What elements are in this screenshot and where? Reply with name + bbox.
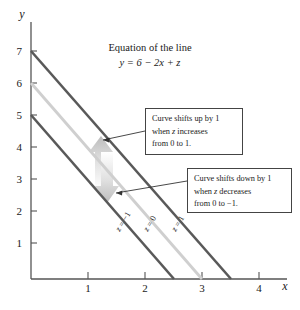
x-tick-2: 2 [142,282,148,294]
annotation-shift-down-line3: from 0 to −1. [194,198,286,211]
chart-title-block: Equation of the line y = 6 − 2x + z [78,40,222,70]
y-axis-label: y [18,7,25,21]
txt-increases: increases [175,127,207,136]
x-tick-3: 3 [199,282,205,294]
annotation-shift-up: Curve shifts up by 1 when z increases fr… [145,108,243,155]
annotation-shift-up-line3: from 0 to 1. [152,138,237,151]
y-tick-2: 2 [17,205,23,217]
chart-title: Equation of the line [78,40,222,55]
y-tick-4: 4 [17,141,23,153]
y-axis-tick-labels: 7 6 5 4 3 2 1 [17,45,23,249]
curve-z-1 [31,51,231,279]
annotation-shift-down-line2: when z decreases [194,186,286,199]
annotation-shift-down: Curve shifts down by 1 when z decreases … [187,168,292,213]
chart-equation: y = 6 − 2x + z [78,55,222,70]
annotation-shift-down-line1: Curve shifts down by 1 [194,173,286,186]
y-tick-1: 1 [17,237,23,249]
txt-when: when [152,127,172,136]
annotation-shift-up-line1: Curve shifts up by 1 [152,113,237,126]
x-axis-tick-labels: 1 2 3 4 [85,282,262,294]
x-axis-label: x [281,279,288,293]
y-axis-ticks [31,51,37,243]
x-tick-4: 4 [256,282,262,294]
y-tick-3: 3 [17,173,23,185]
annotation-shift-up-line2: when z increases [152,126,237,139]
figure-canvas: 7 6 5 4 3 2 1 1 2 3 4 y x [0,0,300,310]
y-tick-6: 6 [17,77,23,89]
txt-decreases: decreases [217,187,251,196]
y-tick-7: 7 [17,45,23,57]
txt-when2: when [194,187,214,196]
y-tick-5: 5 [17,109,23,121]
x-tick-1: 1 [85,282,91,294]
